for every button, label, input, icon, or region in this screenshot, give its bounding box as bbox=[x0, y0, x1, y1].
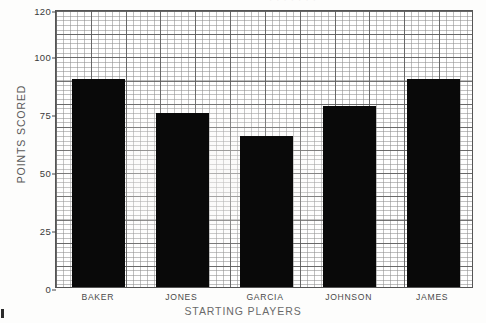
y-axis-tick-label: 75 bbox=[40, 110, 56, 121]
x-axis-tick-label: JAMES bbox=[416, 292, 448, 302]
y-axis-tick-label: 100 bbox=[34, 52, 56, 63]
chart-screenshot: · · · · · · · POINTS SCORED 025507510012… bbox=[0, 0, 486, 323]
bar-jones bbox=[156, 113, 209, 287]
scan-artifact-mark bbox=[1, 309, 4, 318]
plot-area: 0255075100120 bbox=[55, 10, 473, 288]
bar-garcia bbox=[240, 136, 293, 287]
y-axis-tick-label: 0 bbox=[45, 284, 56, 295]
y-axis-title: POINTS SCORED bbox=[15, 69, 27, 199]
chart-title-remnant: · · · · · · · bbox=[228, 0, 358, 4]
bar-johnson bbox=[323, 106, 376, 287]
x-axis-title: STARTING PLAYERS bbox=[0, 305, 486, 317]
y-axis-tick-label: 120 bbox=[34, 6, 56, 17]
x-axis-tick-label: JONES bbox=[165, 292, 197, 302]
x-axis-tick-label: GARCIA bbox=[246, 292, 283, 302]
x-axis-tick-label: JOHNSON bbox=[325, 292, 372, 302]
bar-baker bbox=[72, 79, 125, 288]
y-axis-tick-label: 50 bbox=[40, 168, 56, 179]
bar-james bbox=[407, 79, 460, 288]
y-axis-tick-label: 25 bbox=[40, 226, 56, 237]
x-axis-tick-label: BAKER bbox=[81, 292, 114, 302]
